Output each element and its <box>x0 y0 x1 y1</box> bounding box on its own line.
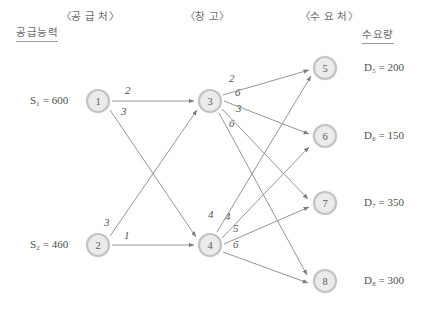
node-1: 1 <box>84 87 112 115</box>
node-4: 4 <box>196 231 224 259</box>
node-7: 7 <box>311 189 339 217</box>
node-7-label: 7 <box>322 198 327 209</box>
edge-4-7 <box>224 207 309 244</box>
node-3: 3 <box>196 87 224 115</box>
edge-4-5 <box>217 76 311 232</box>
node-2-label: 2 <box>95 240 100 251</box>
node-8: 8 <box>311 267 339 295</box>
edge-3-5 <box>223 70 309 95</box>
node-4-label: 4 <box>207 240 213 251</box>
node-5: 5 <box>311 54 339 82</box>
node-3-label: 3 <box>207 96 212 107</box>
edge-3-7 <box>222 109 308 199</box>
network-diagram-page: 〈공 급 처〉 〈창 고〉 〈수 요 처〉 공급능력 수요량 S₁ = 600 … <box>0 0 422 309</box>
edge-3-8 <box>219 113 307 275</box>
edge-3-6 <box>224 101 309 134</box>
network-graph: 1 2 3 4 <box>0 0 422 309</box>
node-1-label: 1 <box>95 96 100 107</box>
edge-4-6 <box>222 147 309 238</box>
nodes-group: 1 2 3 4 <box>84 54 339 295</box>
node-6-label: 6 <box>322 131 327 142</box>
node-2: 2 <box>84 231 112 259</box>
node-6: 6 <box>311 122 339 150</box>
node-8-label: 8 <box>322 276 327 287</box>
edge-4-8 <box>223 252 308 283</box>
node-5-label: 5 <box>322 63 327 74</box>
